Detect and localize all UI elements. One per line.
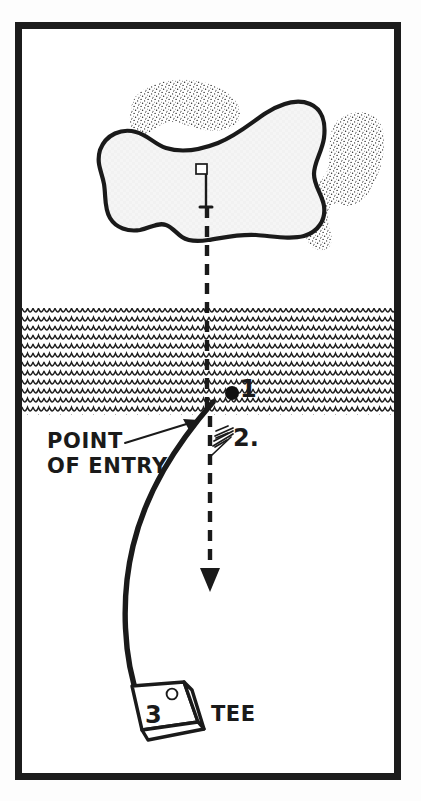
marker-label-2: 2. [233,424,259,452]
tee-label: TEE [211,702,256,726]
flag-icon [196,164,207,174]
diagram-page: POINT OF ENTRY 1 2. 3 TEE [0,0,421,801]
tee-marker-circle-icon [167,689,178,700]
point-of-entry-label-line2: OF ENTRY [47,454,168,478]
ball-position-dot [225,386,239,400]
marker-label-1: 1 [240,375,257,403]
ball-marker-1 [225,386,239,400]
marker-label-3: 3 [145,701,162,729]
tee-box [132,682,204,740]
point-of-entry-label-line1: POINT [47,429,123,453]
golf-hazard-diagram: POINT OF ENTRY 1 2. 3 TEE [0,0,421,801]
